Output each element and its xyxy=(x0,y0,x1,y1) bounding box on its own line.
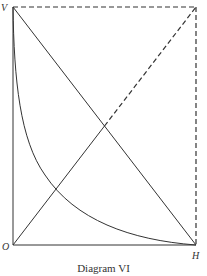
diagram-canvas: V O H Diagram VI xyxy=(0,0,207,276)
label-h: H xyxy=(191,250,200,261)
diagonal-o-corner-dashed xyxy=(105,7,197,126)
label-v: V xyxy=(1,2,9,13)
label-o: O xyxy=(2,241,9,252)
diagonal-o-corner-solid xyxy=(13,126,105,245)
diagram-caption: Diagram VI xyxy=(77,262,130,274)
